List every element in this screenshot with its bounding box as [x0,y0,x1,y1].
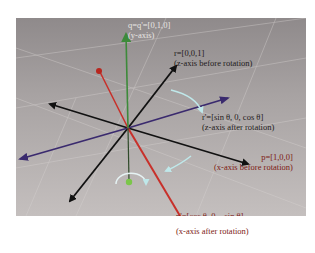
r-prime-label: r'=[sin θ, 0, cos θ] (z-axis after rotat… [202,112,274,132]
r-label: r=[0,0,1] (z-axis before rotation) [174,48,252,68]
r-prime-label-sub: (z-axis after rotation) [202,122,274,132]
p-label-sub: (x-axis before rotation) [214,162,293,172]
p-prime-axis-arrow [128,128,186,216]
red-axis-end-dot [96,68,102,74]
p-prime-label-main: p'=[cos θ, 0, −sin θ] [176,211,243,216]
p-label-main: p=[1,0,0] [214,152,293,162]
p-prime-label: p'=[cos θ, 0, −sin θ] [176,211,243,216]
diagram-panel: q=q'=[0,1,0] (y-axis) r=[0,0,1] (z-axis … [16,18,306,216]
p-prime-label-sub-wrap: (x-axis after rotation) [176,226,249,236]
r-axis-arrow [128,66,176,128]
q-label-sub: (y-axis) [128,30,170,40]
r-rotation-arrow [171,90,202,112]
q-label-main: q=q'=[0,1,0] [128,20,170,30]
neg-x-axis-arrow [50,104,128,128]
r-label-main: r=[0,0,1] [174,48,252,58]
q-label: q=q'=[0,1,0] (y-axis) [128,20,170,40]
neg-z-axis-arrow [70,128,128,201]
neg-r-prime-axis-arrow [20,128,128,159]
r-label-sub: (z-axis before rotation) [174,58,252,68]
q-axis-arrow [126,34,128,128]
p-prime-label-sub: (x-axis after rotation) [176,226,249,236]
p-rotation-arrow [166,156,191,171]
r-prime-label-main: r'=[sin θ, 0, cos θ] [202,112,274,122]
y-axis-rotation-center [126,179,132,185]
p-label: p=[1,0,0] (x-axis before rotation) [214,152,293,172]
neg-p-prime-axis-line [100,72,128,128]
